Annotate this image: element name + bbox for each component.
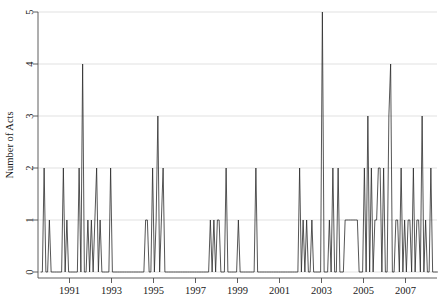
x-tick-label: 1997 [185,285,206,296]
y-axis-title: Number of Acts [4,111,15,178]
x-tick-label: 1991 [59,285,80,296]
y-tick-label: 0 [24,269,35,274]
chart-figure: 012345 199119931995199719992001200320052… [0,0,443,306]
number-of-acts-line-chart: 012345 199119931995199719992001200320052… [0,0,443,306]
y-tick-label: 2 [24,165,35,170]
x-tick-label: 2001 [269,285,290,296]
y-axis-title-text: Number of Acts [4,111,15,178]
x-tick-label: 2003 [311,285,332,296]
x-axis-tick-labels: 199119931995199719992001200320052007 [59,285,416,296]
y-tick-label: 1 [24,217,35,222]
y-tick-label: 5 [24,9,35,14]
y-axis-ticks [33,12,38,272]
x-tick-label: 2005 [353,285,374,296]
y-tick-label: 3 [24,113,35,118]
series-number-of-acts [41,12,438,272]
y-tick-label: 4 [24,61,35,67]
y-axis-tick-labels: 012345 [24,9,35,274]
x-axis-ticks [70,278,406,283]
x-tick-label: 1999 [227,285,248,296]
x-tick-label: 1995 [143,285,164,296]
x-tick-label: 2007 [395,285,416,296]
x-tick-label: 1993 [101,285,122,296]
